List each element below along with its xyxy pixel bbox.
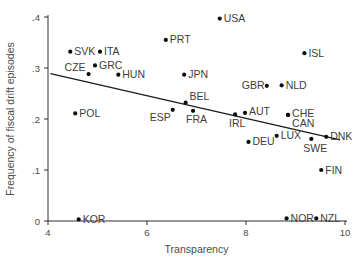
data-point[interactable] <box>164 38 168 42</box>
data-point[interactable] <box>73 111 77 115</box>
data-point-label: NOR <box>291 212 315 224</box>
x-tick-label: 8 <box>243 227 248 238</box>
data-point-label: USA <box>224 12 246 24</box>
data-point[interactable] <box>284 216 288 220</box>
data-point-label: GBR <box>242 79 265 91</box>
data-point-label: POL <box>79 107 100 119</box>
data-point[interactable] <box>265 84 269 88</box>
data-point-label: JPN <box>188 68 208 80</box>
y-axis-title: Frequency of fiscal drift episodes <box>4 42 16 196</box>
data-point[interactable] <box>68 50 72 54</box>
scatter-chart: 468100.1.2.3.4SVKITAGRCCZEHUNPOLKORPRTUS… <box>0 0 362 264</box>
data-point[interactable] <box>243 111 247 115</box>
data-point-label: PRT <box>170 33 191 45</box>
data-point-label: FIN <box>325 164 342 176</box>
data-point[interactable] <box>86 72 90 76</box>
data-point-label: AUT <box>249 105 271 117</box>
data-point-label: ITA <box>104 45 120 57</box>
data-point-label: DNK <box>330 130 352 142</box>
data-point[interactable] <box>275 134 279 138</box>
data-point-label: SVK <box>74 45 95 57</box>
data-point-label: GRC <box>99 59 123 71</box>
data-point-label: NLD <box>286 79 307 91</box>
data-point[interactable] <box>246 140 250 144</box>
x-axis-title: Transparency <box>165 243 230 255</box>
data-point[interactable] <box>280 83 284 87</box>
x-tick-label: 4 <box>45 227 50 238</box>
data-point[interactable] <box>319 168 323 172</box>
data-point[interactable] <box>302 51 306 55</box>
data-point[interactable] <box>324 135 328 139</box>
data-point-label: BEL <box>190 90 210 102</box>
x-tick-label: 10 <box>340 227 351 238</box>
data-point-label: SWE <box>303 142 327 154</box>
y-tick-label: .4 <box>32 12 40 23</box>
data-point-label: KOR <box>83 213 106 225</box>
y-tick-label: .3 <box>32 63 40 74</box>
data-point-label: IRL <box>229 117 246 129</box>
data-point-label: ISL <box>308 47 324 59</box>
data-point-label: NZL <box>320 212 340 224</box>
data-point[interactable] <box>182 73 186 77</box>
data-point-label: DEU <box>252 135 274 147</box>
data-point-label: CAN <box>292 117 314 129</box>
plot-area: 468100.1.2.3.4SVKITAGRCCZEHUNPOLKORPRTUS… <box>0 0 362 264</box>
data-point[interactable] <box>93 63 97 67</box>
data-point[interactable] <box>286 113 290 117</box>
data-point[interactable] <box>309 137 313 141</box>
y-tick-label: .2 <box>32 114 40 125</box>
data-point[interactable] <box>314 216 318 220</box>
data-point[interactable] <box>98 50 102 54</box>
data-point[interactable] <box>116 73 120 77</box>
data-point-label: ESP <box>150 111 171 123</box>
data-point[interactable] <box>233 112 237 116</box>
data-point[interactable] <box>77 217 81 221</box>
data-point[interactable] <box>218 16 222 20</box>
data-point[interactable] <box>184 101 188 105</box>
data-point-label: HUN <box>122 68 145 80</box>
data-point-label: CZE <box>65 61 86 73</box>
y-tick-label: 0 <box>35 216 40 227</box>
y-tick-label: .1 <box>32 165 40 176</box>
data-point-label: LUX <box>281 129 301 141</box>
data-point[interactable] <box>171 108 175 112</box>
data-point-label: FRA <box>186 113 207 125</box>
x-tick-label: 6 <box>144 227 149 238</box>
